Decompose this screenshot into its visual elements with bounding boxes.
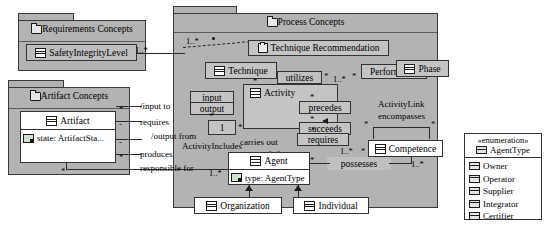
class-artifact-name: Artifact [21,112,115,129]
class-icon [404,64,415,74]
link-artifact-responsible [116,154,142,155]
role-produces: produces [140,150,173,159]
multiplicity-activity-in-star: * [209,111,213,121]
class-icon [304,201,315,211]
package-process-label: Process Concepts [278,17,345,27]
uml-diagram-canvas: Process Concepts Requirements Concepts S… [0,0,548,225]
class-agent[interactable]: Agent type: AgentType [228,152,310,185]
attribute-icon [231,173,242,182]
literal-icon [469,187,480,195]
class-technique-recommendation[interactable]: Technique Recommendation [248,40,389,56]
multiplicity-dot-a [212,37,215,40]
multiplicity-utilizes-star: * [324,71,328,81]
link-possesses-riser [411,157,412,164]
package-artifact-title: Artifact Concepts [9,88,129,104]
association-precedes[interactable]: precedes [299,101,351,114]
multiplicity-includes-box: 1 [208,120,236,135]
class-agent-name: Agent [229,153,309,169]
multiplicity-competence-right: 1..* [411,159,424,169]
class-icon [46,116,57,126]
multiplicity-precedes-star: * [310,92,314,102]
enumeration-literal-list: Owner Operator Supplier Integrator Certi… [465,158,541,223]
class-activity-name: Activity [244,85,337,101]
enumeration-literal-certifier[interactable]: Certifier [465,210,541,223]
class-icon [250,156,261,166]
enumeration-literal-owner[interactable]: Owner [465,160,541,173]
multiplicity-performed-a: 1..* [333,74,346,84]
package-requirements-title: Requirements Concepts [19,21,145,37]
role-requires-artifact: requires [140,118,169,127]
class-phase[interactable]: Phase [396,60,449,77]
arrowhead-succeeds [322,118,328,124]
class-technique-name: Technique [206,63,276,78]
link-activity-link-right [429,127,430,139]
class-individual-name: Individual [294,198,368,213]
class-competence[interactable]: Competence [368,140,443,157]
literal-icon [469,200,480,208]
enumeration-icon [476,146,487,154]
association-class-activity-link: ActivityLink [378,100,425,109]
folder-icon [30,92,41,101]
generalization-arrow-individual [294,185,302,191]
association-possesses[interactable]: possesses [327,157,391,170]
link-possesses-right [389,163,411,164]
class-agent-attribute: type: AgentType [229,169,309,185]
enumeration-literal-supplier[interactable]: Supplier [465,185,541,198]
class-technique[interactable]: Technique [205,62,277,79]
role-output-from: /output from [151,132,196,141]
package-process-title: Process Concepts [174,14,437,30]
role-responsible-for: responsible for [140,164,194,173]
multiplicity-succeeds-star: * [310,114,314,124]
multiplicity-competence-dot: * [361,146,365,156]
package-artifact-label: Artifact Concepts [41,91,108,101]
multiplicity-performed-star: * [352,71,356,81]
class-organization[interactable]: Organization [194,197,282,214]
multiplicity-includes-star: * [238,122,242,132]
literal-icon [469,212,480,220]
association-requires-competence[interactable]: requires [297,133,349,146]
note-icon [258,43,268,53]
link-sil-to-technique [137,53,185,54]
class-icon [35,48,46,58]
link-artifact-bottom-riser [66,163,67,170]
generalization-arrow-organization [245,185,253,191]
enumeration-literal-integrator[interactable]: Integrator [465,198,541,211]
enumeration-literal-operator[interactable]: Operator [465,173,541,186]
class-artifact[interactable]: Artifact state: ArtifactSta... [20,111,116,163]
association-utilizes[interactable]: utilizes [277,71,322,84]
association-carries-out: carries out [240,138,278,147]
package-requirements-label: Requirements Concepts [42,24,133,34]
association-activity-includes: ActivityIncludes [182,142,242,151]
multiplicity-requires-one: 1..* [340,146,353,156]
link-activity-link-left [373,127,374,139]
link-artifact-requires [116,121,142,122]
role-input-to: /input to [140,102,170,111]
class-icon [375,144,386,154]
enumeration-stereotype: «enumeration» [465,134,541,145]
literal-icon [469,162,480,170]
link-artifact-input [116,106,142,107]
multiplicity-activity-top: * [253,76,257,86]
association-encompasses: encompasses [378,112,425,121]
folder-icon [267,18,278,27]
multiplicity-encompasses-left: * [364,119,368,129]
class-safety-integrity-level[interactable]: SafetyIntegrityLevel [26,44,137,61]
folder-icon [31,25,42,34]
multiplicity-technique-left: 1..* [186,36,199,46]
literal-icon [469,175,480,183]
enumeration-agent-type[interactable]: «enumeration» AgentType Owner Operator S… [464,133,542,220]
class-safety-integrity-level-name: SafetyIntegrityLevel [27,45,136,60]
multiplicity-requires-star: * [311,125,315,135]
multiplicity-encompasses-right: * [431,119,435,129]
class-competence-name: Competence [369,141,442,156]
multiplicity-agent-left: 1..* [209,168,222,178]
class-organization-name: Organization [195,198,281,213]
class-individual[interactable]: Individual [293,197,369,214]
class-icon [206,201,217,211]
package-requirements-separator [19,41,145,42]
class-icon [250,88,261,98]
package-artifact-separator [9,108,129,109]
link-activity-link-top [373,127,429,128]
class-phase-name: Phase [397,61,448,76]
class-artifact-attribute: state: ArtifactSta... [21,129,115,146]
